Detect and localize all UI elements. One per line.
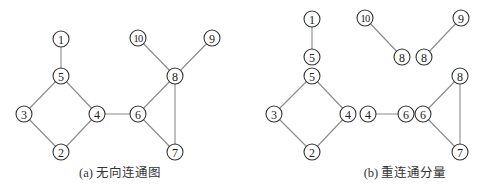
node-1: 1	[53, 31, 69, 47]
node-label: 3	[21, 108, 27, 122]
panel-b-edges	[274, 18, 461, 152]
node-label: 9	[209, 32, 215, 46]
node-label: 6	[135, 108, 141, 122]
node-label: 8	[421, 51, 427, 65]
node-3: 3	[266, 106, 282, 122]
graph-diagram: 15342678109 1553421088946687	[0, 0, 480, 188]
node-4: 4	[340, 106, 356, 122]
panel-b-nodes: 1553421088946687	[266, 10, 469, 160]
node-label: 3	[271, 108, 277, 122]
node-label: 9	[458, 12, 464, 26]
node-label: 6	[420, 108, 426, 122]
node-2: 2	[304, 144, 320, 160]
node-label: 8	[172, 70, 178, 84]
node-label: 5	[309, 70, 315, 84]
node-9: 9	[453, 10, 469, 26]
node-5: 5	[304, 49, 320, 65]
node-label: 5	[309, 51, 315, 65]
node-label: 4	[365, 108, 371, 122]
node-label: 8	[457, 70, 463, 84]
panel-a-undirected-connected-graph: 15342678109	[16, 30, 220, 160]
node-label: 2	[58, 146, 64, 160]
caption-panel-b: (b) 重连通分量	[364, 162, 447, 181]
node-label: 8	[399, 51, 405, 65]
node-label: 2	[309, 146, 315, 160]
node-6: 6	[398, 106, 414, 122]
node-6: 6	[130, 106, 146, 122]
node-label: 1	[58, 33, 64, 47]
node-8: 8	[416, 49, 432, 65]
node-10: 10	[357, 10, 373, 26]
node-label: 7	[172, 146, 178, 160]
node-4: 4	[360, 106, 376, 122]
node-label: 1	[309, 13, 315, 27]
node-label: 4	[94, 108, 100, 122]
panel-a-nodes: 15342678109	[16, 30, 220, 160]
node-7: 7	[452, 144, 468, 160]
caption-panel-a: (a) 无向连通图	[79, 162, 161, 181]
node-label: 10	[361, 13, 370, 24]
node-3: 3	[16, 106, 32, 122]
node-5: 5	[53, 68, 69, 84]
node-6: 6	[415, 106, 431, 122]
node-2: 2	[53, 144, 69, 160]
node-label: 7	[457, 146, 463, 160]
node-5: 5	[304, 68, 320, 84]
panel-b-biconnected-components: 1553421088946687	[266, 10, 469, 160]
node-label: 10	[134, 33, 143, 44]
node-4: 4	[89, 106, 105, 122]
node-7: 7	[167, 144, 183, 160]
node-label: 4	[345, 108, 351, 122]
node-label: 6	[403, 108, 409, 122]
node-8: 8	[452, 68, 468, 84]
node-label: 5	[58, 70, 64, 84]
node-8: 8	[394, 49, 410, 65]
node-9: 9	[204, 30, 220, 46]
node-10: 10	[130, 30, 146, 46]
panel-a-edges	[24, 38, 212, 152]
node-8: 8	[167, 68, 183, 84]
node-1: 1	[304, 11, 320, 27]
